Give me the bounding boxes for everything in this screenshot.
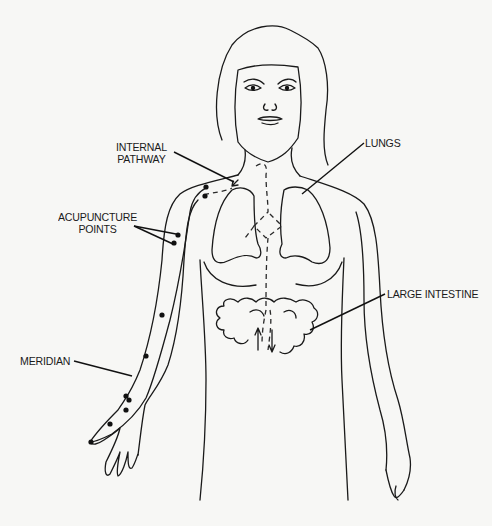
torso-left-side: [200, 260, 206, 500]
label-lungs-text: LUNGS: [365, 137, 401, 149]
leader-internal-pathway: [174, 152, 234, 182]
internal-pathway-path: [204, 164, 282, 345]
label-meridian: MERIDIAN: [20, 355, 70, 367]
label-acupuncture-line1: ACUPUNCTURE: [58, 211, 137, 223]
label-acupuncture-line2: POINTS: [58, 223, 137, 235]
torso-right-side: [341, 258, 348, 500]
right-eyebrow: [278, 79, 296, 84]
leader-acupuncture-2: [134, 226, 173, 244]
left-breast: [204, 262, 256, 286]
hair-outline: [217, 26, 328, 165]
label-meridian-text: MERIDIAN: [20, 355, 70, 367]
label-internal-pathway-line1: INTERNAL: [116, 141, 167, 153]
right-shoulder-outer-arm: [300, 176, 411, 490]
leader-lungs: [302, 143, 364, 194]
label-internal-pathway-line2: PATHWAY: [116, 153, 167, 165]
leader-acupuncture-1: [134, 226, 176, 234]
left-hand: [90, 428, 138, 476]
left-eyebrow: [244, 79, 264, 84]
right-lung: [280, 187, 330, 263]
leader-meridian: [74, 361, 132, 376]
right-hand: [386, 470, 404, 500]
right-breast: [296, 262, 342, 286]
intestine-arrow-left: [255, 328, 261, 350]
label-large-intestine: LARGE INTESTINE: [387, 288, 478, 300]
body-diagram: [0, 0, 492, 526]
label-internal-pathway: INTERNAL PATHWAY: [116, 141, 167, 165]
leader-large-intestine: [310, 294, 385, 330]
mouth: [258, 117, 282, 125]
label-lungs: LUNGS: [365, 137, 401, 149]
large-intestine: [217, 298, 318, 353]
label-large-intestine-text: LARGE INTESTINE: [387, 288, 478, 300]
left-lung: [212, 188, 261, 263]
intestine-arrow-right: [269, 330, 275, 352]
label-acupuncture-points: ACUPUNCTURE POINTS: [58, 211, 137, 235]
right-inner-arm: [356, 212, 387, 470]
nose: [264, 104, 277, 110]
